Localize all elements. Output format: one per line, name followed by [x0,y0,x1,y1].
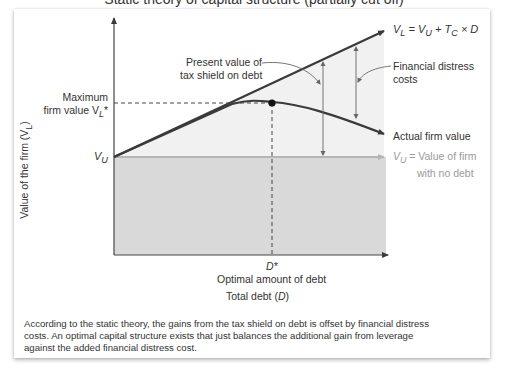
financial-distress-label: Financial distress costs [393,60,474,85]
figure-caption: According to the static theory, the gain… [24,318,444,354]
optimum-point [268,99,275,106]
x-axis-title: Total debt (D) [226,290,289,303]
vu-axis-label: VU [94,150,108,167]
actual-firm-value-label: Actual firm value [393,130,471,143]
pv-tax-shield-label: Present value of tax shield on debt [180,56,262,81]
vu-fill [114,157,386,255]
y-axis-title: Value of the firm (VL) [18,121,33,218]
max-firm-value-label: Maximum firm value VL* [30,91,108,120]
vl-equation-label: VL = VU + TC × D [393,23,478,40]
vu-legend-label: VU = Value of firm with no debt [393,150,476,179]
dstar-label: D* [266,260,278,273]
optimal-debt-label: Optimal amount of debt [217,273,326,286]
